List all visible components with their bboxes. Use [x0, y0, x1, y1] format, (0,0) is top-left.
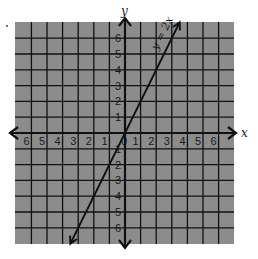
x-tick-label: 5 [195, 135, 201, 147]
y-tick-label: 5 [115, 206, 121, 218]
coordinate-plane: 6543210123456654321123456 x y y = 2x [0, 0, 258, 259]
x-tick-label: 1 [133, 135, 139, 147]
x-tick-label: 6 [211, 135, 217, 147]
y-tick-label: 6 [115, 32, 121, 44]
x-tick-label: 3 [164, 135, 170, 147]
x-tick-label: 5 [39, 135, 45, 147]
y-tick-label: 5 [115, 48, 121, 60]
x-tick-label: 4 [179, 135, 185, 147]
x-tick-label: 4 [55, 135, 61, 147]
y-tick-label: 3 [115, 80, 121, 92]
x-tick-label: 1 [101, 135, 107, 147]
x-axis-label: x [241, 126, 248, 140]
y-tick-label: 4 [115, 190, 121, 202]
x-tick-label: 2 [86, 135, 92, 147]
x-tick-label: 3 [70, 135, 76, 147]
y-tick-label: 1 [115, 111, 121, 123]
y-tick-label: 2 [115, 159, 121, 171]
stray-dot [6, 25, 8, 27]
x-tick-label: 6 [23, 135, 29, 147]
y-axis-label: y [120, 4, 128, 18]
y-tick-label: 4 [115, 64, 121, 76]
y-tick-label: 2 [115, 95, 121, 107]
y-tick-label: 6 [115, 222, 121, 234]
x-tick-label: 2 [148, 135, 154, 147]
y-tick-label: 3 [115, 174, 121, 186]
